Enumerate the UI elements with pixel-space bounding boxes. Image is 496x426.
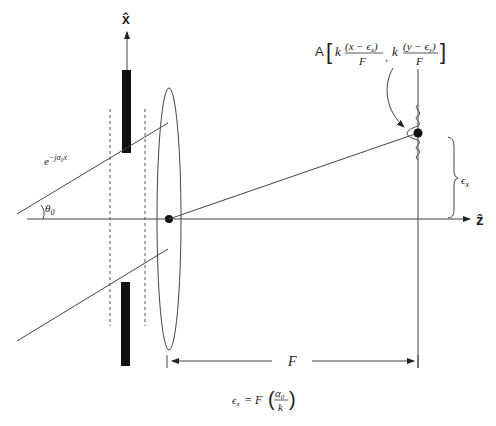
svg-text:A: A bbox=[315, 44, 324, 59]
shift-label: ϵx bbox=[461, 174, 469, 189]
svg-text:k: k bbox=[335, 44, 341, 59]
svg-text:(y − ϵy): (y − ϵy) bbox=[403, 40, 436, 54]
amplitude-expression: A [ k (x − ϵx) F , k (y − ϵy) F ] bbox=[315, 39, 446, 67]
optics-diagram: ẑ x̂ θ0 e−jα₀x ϵx F A [ k (x − ϵx) F , bbox=[0, 0, 496, 426]
svg-text:F: F bbox=[358, 55, 366, 67]
shift-equation: ϵx = F ( α0 k ) bbox=[232, 387, 296, 413]
svg-text:k: k bbox=[278, 401, 284, 413]
svg-text:]: ] bbox=[440, 39, 446, 64]
theta-label: θ0 bbox=[45, 202, 54, 217]
focal-spot-dot bbox=[414, 129, 423, 138]
svg-text:(x − ϵx): (x − ϵx) bbox=[345, 40, 378, 54]
svg-text:F: F bbox=[415, 55, 423, 67]
aperture-lower-block bbox=[121, 282, 130, 366]
svg-text:): ) bbox=[289, 388, 296, 410]
z-axis-label: ẑ bbox=[476, 211, 484, 228]
incident-wave-label: e−jα₀x bbox=[44, 153, 67, 167]
pointer-arrow bbox=[387, 68, 404, 127]
svg-text:α0: α0 bbox=[275, 387, 285, 401]
x-axis-label: x̂ bbox=[122, 11, 130, 27]
svg-text:,: , bbox=[385, 51, 388, 63]
svg-text:(: ( bbox=[268, 388, 275, 410]
aperture-upper-block bbox=[122, 70, 131, 153]
svg-text:= F: = F bbox=[244, 393, 263, 407]
svg-text:[: [ bbox=[326, 39, 332, 64]
shift-brace bbox=[448, 137, 458, 218]
svg-text:ϵx: ϵx bbox=[232, 394, 240, 408]
angle-arc bbox=[41, 205, 44, 219]
svg-text:k: k bbox=[392, 44, 398, 59]
focused-ray bbox=[169, 133, 418, 219]
focal-length-label: F bbox=[287, 354, 297, 369]
